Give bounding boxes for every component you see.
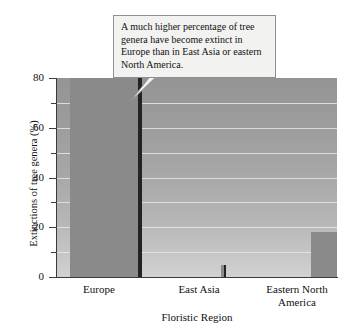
x-tick-label-ena-line1: Eastern North <box>266 283 327 295</box>
y-tick-minor-70 <box>51 103 56 104</box>
bar-east-asia <box>221 265 226 277</box>
x-tick-label-europe: Europe <box>50 283 148 296</box>
bar-chart-figure: 80 60 40 20 0 Extinctions of tree genera… <box>0 0 352 331</box>
x-axis-title: Floristic Region <box>57 311 337 323</box>
bar-europe <box>70 78 142 277</box>
y-axis-title: Extinctions of tree genera (%) <box>28 89 39 279</box>
bar-europe-edge <box>138 78 142 277</box>
y-tick-minor-50 <box>51 153 56 154</box>
y-tick-minor-30 <box>51 202 56 203</box>
annotation-callout: A much higher percentage of tree genera … <box>113 15 276 78</box>
plot-area <box>57 78 337 277</box>
y-tick-label-80: 80 <box>4 72 44 83</box>
y-tick-20 <box>49 227 56 228</box>
y-tick-0 <box>49 277 56 278</box>
bar-east-asia-edge <box>224 265 226 277</box>
bar-eastern-north-america <box>311 232 337 277</box>
y-tick-80 <box>49 78 56 79</box>
y-axis-line <box>56 78 57 278</box>
y-tick-40 <box>49 178 56 179</box>
bar-eastern-north-america-face <box>311 232 337 277</box>
x-tick-label-east-asia: East Asia <box>150 283 248 296</box>
callout-tail-icon <box>128 74 160 104</box>
x-tick-label-eastern-north-america: Eastern North America <box>248 283 346 309</box>
y-tick-60 <box>49 128 56 129</box>
x-axis-line <box>56 277 338 278</box>
y-tick-minor-10 <box>51 252 56 253</box>
bar-europe-face <box>70 78 142 277</box>
x-tick-label-ena-line2: America <box>278 296 316 308</box>
